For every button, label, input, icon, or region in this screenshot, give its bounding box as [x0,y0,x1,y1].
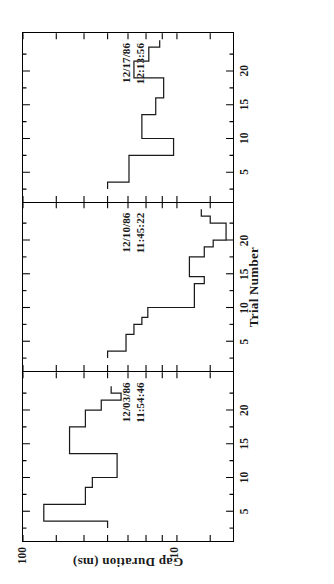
panel-3-date: 12/17/86 [119,43,133,84]
panel-row: 12/03/86 11:54:46 5 10 15 20 [22,32,234,542]
panel-2: 12/10/86 11:45:22 5 10 15 20 [22,203,234,373]
panel-1: 12/03/86 11:54:46 5 10 15 20 [22,372,234,542]
figure-canvas: 100 10 Gap Duration (ms) [0,0,334,584]
panel-2-time: 11:45:22 [133,213,147,254]
panel-1-time: 11:54:46 [133,382,147,423]
panel-1-session-label: 12/03/86 11:54:46 [119,382,147,423]
panel-2-session-label: 12/10/86 11:45:22 [119,213,147,254]
panel-3-time: 12:13:56 [133,43,147,84]
panel-1-trace [44,386,121,528]
panel-3-session-label: 12/17/86 12:13:56 [119,43,147,84]
panel-2-date: 12/10/86 [119,213,133,254]
panel-1-date: 12/03/86 [119,382,133,423]
rotated-figure-wrapper: 100 10 Gap Duration (ms) [0,0,334,584]
y-axis-title: Gap Duration (ms) [22,554,234,570]
panel-3: 12/17/86 12:13:56 5 10 15 20 [22,32,234,203]
x-axis-title: Trial Number [246,32,262,542]
